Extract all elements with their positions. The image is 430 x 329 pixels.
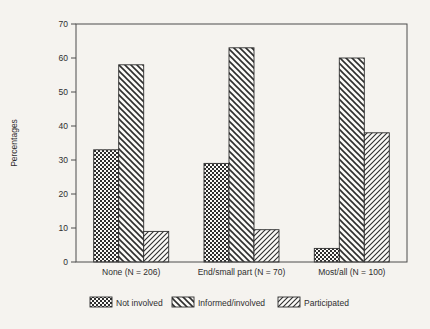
bar-informed-involved-none-n-206	[119, 65, 144, 262]
bar-chart: None (N = 206)End/small part (N = 70)Mos…	[0, 0, 430, 329]
legend-label-participated: Participated	[304, 298, 349, 308]
bar-not-involved-most-all-n-100	[314, 248, 339, 262]
legend-swatch-participated	[278, 297, 300, 307]
legend-swatch-informed-involved	[172, 297, 194, 307]
y-tick-label-40: 40	[59, 121, 69, 131]
legend-swatch-not-involved	[90, 297, 112, 307]
bar-informed-involved-end-small-part-n-70	[229, 48, 254, 262]
y-tick-label-30: 30	[59, 155, 69, 165]
y-axis-title: Percentages	[9, 119, 19, 167]
y-tick-label-50: 50	[59, 87, 69, 97]
y-tick-label-10: 10	[59, 223, 69, 233]
legend-label-informed-involved: Informed/involved	[198, 298, 265, 308]
x-category-label-end-small-part-n-70: End/small part (N = 70)	[198, 267, 286, 277]
y-tick-label-0: 0	[63, 257, 68, 267]
bar-not-involved-none-n-206	[94, 150, 119, 262]
y-tick-label-20: 20	[59, 189, 69, 199]
bar-not-involved-end-small-part-n-70	[204, 163, 229, 262]
y-tick-label-60: 60	[59, 53, 69, 63]
legend-label-not-involved: Not involved	[116, 298, 163, 308]
x-category-label-none-n-206: None (N = 206)	[102, 267, 161, 277]
x-category-label-most-all-n-100: Most/all (N = 100)	[318, 267, 385, 277]
bar-participated-end-small-part-n-70	[254, 230, 279, 262]
scanned-figure: None (N = 206)End/small part (N = 70)Mos…	[0, 0, 430, 329]
y-tick-label-70: 70	[59, 19, 69, 29]
bar-informed-involved-most-all-n-100	[339, 58, 364, 262]
bar-participated-none-n-206	[144, 231, 169, 262]
bar-participated-most-all-n-100	[364, 133, 389, 262]
